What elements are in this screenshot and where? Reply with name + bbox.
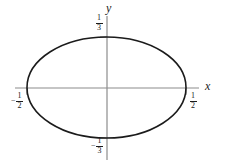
denominator: 3: [97, 147, 103, 156]
x-negative-tick-label: − 1 2: [11, 92, 23, 110]
x-negative-sign: −: [11, 97, 16, 106]
numerator: 1: [190, 92, 196, 101]
y-negative-sign: −: [91, 142, 96, 151]
numerator: 1: [97, 137, 103, 146]
y-positive-tick-label: 1 3: [95, 14, 103, 32]
denominator: 2: [17, 102, 23, 111]
y-axis-label: y: [106, 2, 111, 14]
fraction-one-third: 1 3: [96, 137, 103, 155]
denominator: 2: [190, 102, 196, 111]
ellipse-figure: x y 1 3 − 1 3 1 2 − 1 2: [0, 0, 225, 165]
fraction-one-third: 1 3: [96, 14, 103, 32]
plot-canvas: [0, 0, 225, 165]
x-axis-label: x: [205, 80, 210, 92]
y-negative-tick-label: − 1 3: [91, 137, 103, 155]
numerator: 1: [17, 92, 23, 101]
denominator: 3: [96, 24, 102, 33]
numerator: 1: [96, 14, 102, 23]
fraction-one-half: 1 2: [16, 92, 23, 110]
fraction-one-half: 1 2: [190, 92, 197, 110]
x-positive-tick-label: 1 2: [189, 92, 197, 110]
